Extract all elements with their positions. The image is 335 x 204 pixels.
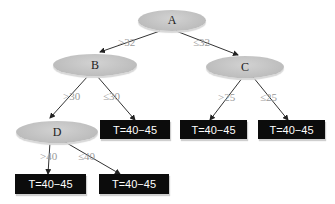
leaf-label: T=40−45	[269, 124, 313, 136]
node-a: A	[138, 10, 206, 31]
edge-label-c-leaf2: ≤25	[260, 91, 277, 103]
leaf-label: T=40−45	[191, 124, 235, 136]
node-b: B	[53, 54, 137, 76]
leaf-d2: T=40−45	[99, 174, 169, 194]
leaf-b: T=40−45	[100, 120, 170, 139]
node-a-label: A	[168, 13, 177, 28]
edge-label-b-d: >30	[63, 90, 80, 102]
leaf-c2: T=40−45	[258, 120, 325, 139]
leaf-label: T=40−45	[113, 124, 157, 136]
leaf-label: T=40−45	[28, 178, 72, 190]
leaf-c1: T=40−45	[180, 120, 247, 139]
edge-label-b-leaf: ≤30	[103, 90, 120, 102]
node-c: C	[206, 56, 284, 78]
leaf-label: T=40−45	[112, 178, 156, 190]
edge-label-a-c: ≤32	[193, 36, 210, 48]
node-b-label: B	[91, 58, 99, 73]
leaf-d1: T=40−45	[15, 174, 86, 194]
node-d-label: D	[53, 125, 62, 140]
edge-label-a-b: >32	[118, 36, 135, 48]
edge-label-d-leaf1: >40	[40, 150, 57, 162]
edge-label-d-leaf2: ≤40	[78, 150, 95, 162]
edge-label-c-leaf1: >25	[218, 91, 235, 103]
node-c-label: C	[241, 60, 249, 75]
node-d: D	[16, 121, 98, 143]
